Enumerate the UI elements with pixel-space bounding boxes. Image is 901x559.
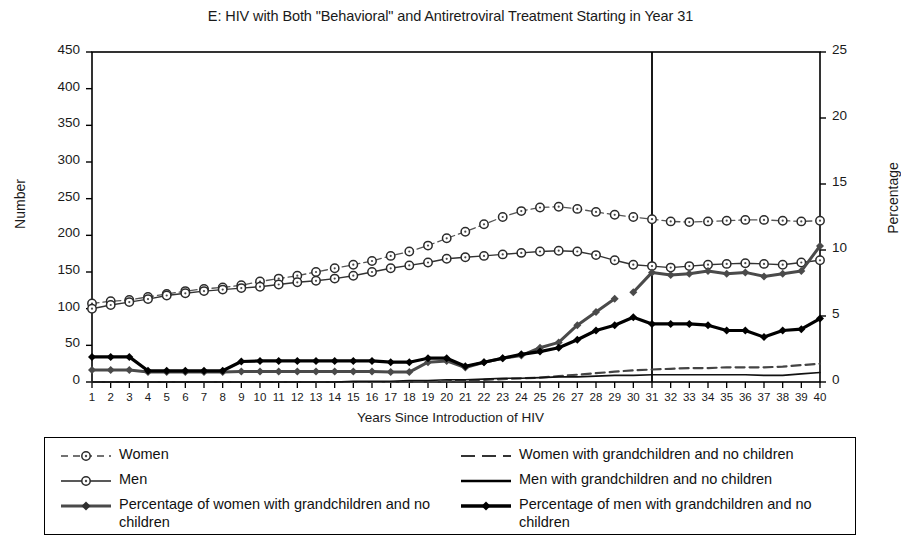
series-marker-dot-1 (184, 292, 186, 294)
y-axis-left-tick-label: 250 (14, 189, 80, 204)
y-axis-left-tick-label: 350 (14, 115, 80, 130)
series-marker-3 (331, 357, 339, 365)
series-marker-dot-0 (483, 223, 485, 225)
series-marker-dot-1 (408, 264, 410, 266)
series-marker-dot-0 (539, 206, 541, 208)
series-marker-3 (648, 320, 656, 328)
series-marker-dot-1 (595, 254, 597, 256)
series-marker-3 (779, 327, 787, 335)
series-line-2 (633, 246, 820, 292)
series-marker-dot-1 (670, 267, 672, 269)
legend-swatch (59, 446, 117, 466)
series-marker-dot-1 (166, 294, 168, 296)
series-marker-dot-1 (427, 261, 429, 263)
legend-item[interactable]: Women (59, 446, 459, 468)
series-marker-dot-0 (651, 218, 653, 220)
series-marker-dot-0 (334, 267, 336, 269)
series-marker-2 (667, 271, 675, 279)
series-marker-dot-1 (651, 265, 653, 267)
y-axis-right-tick-label: 15 (832, 174, 862, 189)
series-marker-dot-0 (315, 271, 317, 273)
series-marker-dot-0 (558, 206, 560, 208)
series-marker-dot-0 (819, 220, 821, 222)
legend-item[interactable]: Women with grandchildren and no children (459, 446, 854, 468)
series-marker-dot-0 (595, 211, 597, 213)
series-marker-3 (667, 320, 675, 328)
series-marker-dot-0 (744, 219, 746, 221)
series-marker-dot-1 (632, 264, 634, 266)
series-marker-dot-1 (502, 253, 504, 255)
legend-item[interactable]: Men with grandchildren and no children (459, 471, 854, 493)
legend-swatch (459, 496, 517, 516)
series-line-5 (92, 373, 820, 383)
series-marker-dot-1 (707, 264, 709, 266)
series-marker-dot-1 (203, 290, 205, 292)
series-marker-2 (107, 366, 115, 374)
x-axis-title: Years Since Introduction of HIV (0, 410, 901, 425)
y-axis-left-tick-label: 400 (14, 79, 80, 94)
legend-swatch (59, 496, 117, 516)
series-marker-dot-0 (408, 250, 410, 252)
series-marker-2 (760, 272, 768, 280)
series-marker-dot-1 (576, 250, 578, 252)
series-marker-2 (312, 367, 320, 375)
series-marker-dot-0 (726, 220, 728, 222)
series-marker-dot-0 (520, 210, 522, 212)
y-axis-right-tick-label: 0 (832, 372, 862, 387)
series-marker-3 (107, 353, 115, 361)
series-marker-dot-1 (558, 250, 560, 252)
y-axis-right-tick-label: 10 (832, 240, 862, 255)
legend-label: Women (117, 446, 169, 464)
series-marker-2 (368, 367, 376, 375)
series-marker-dot-1 (782, 264, 784, 266)
legend-item[interactable]: Percentage of men with grandchildren and… (459, 496, 854, 531)
legend-item[interactable]: Men (59, 471, 459, 493)
series-marker-dot-1 (614, 259, 616, 261)
series-marker-2 (256, 367, 264, 375)
series-marker-3 (275, 357, 283, 365)
series-marker-3 (723, 327, 731, 335)
legend-item[interactable]: Percentage of women with grandchildren a… (59, 496, 459, 531)
series-marker-2 (723, 270, 731, 278)
series-marker-dot-0 (707, 220, 709, 222)
series-marker-dot-1 (763, 263, 765, 265)
series-marker-dot-0 (688, 221, 690, 223)
legend-label: Men (117, 471, 147, 489)
series-marker-3 (405, 358, 413, 366)
series-marker-dot-0 (763, 219, 765, 221)
series-marker-dot-0 (632, 216, 634, 218)
series-marker-3 (480, 358, 488, 366)
series-marker-dot-0 (614, 214, 616, 216)
chart-title: E: HIV with Both "Behavioral" and Antire… (0, 8, 901, 24)
series-marker-dot-0 (352, 264, 354, 266)
legend-swatch (459, 446, 517, 466)
plot-frame (92, 52, 820, 382)
series-marker-3 (499, 354, 507, 362)
series-marker-2 (331, 367, 339, 375)
y-axis-left-tick-label: 150 (14, 262, 80, 277)
series-marker-dot-0 (446, 237, 448, 239)
legend-label: Percentage of men with grandchildren and… (517, 496, 854, 531)
series-marker-dot-1 (110, 304, 112, 306)
legend-swatch-dashed-plain (459, 446, 517, 466)
legend-swatch-dashed-open-circle (59, 446, 117, 466)
series-marker-dot-1 (91, 308, 93, 310)
legend-swatch-thick-gray-diamond (59, 496, 117, 516)
series-marker-3 (685, 320, 693, 328)
series-marker-dot-1 (128, 301, 130, 303)
legend-swatch-thick-black-diamond (459, 496, 517, 516)
series-marker-dot-1 (446, 258, 448, 260)
series-marker-dot-1 (334, 278, 336, 280)
y-axis-right-tick-label: 5 (832, 306, 862, 321)
series-marker-3 (368, 357, 376, 365)
series-marker-dot-1 (352, 275, 354, 277)
series-marker-2 (349, 367, 357, 375)
series-marker-dot-1 (222, 289, 224, 291)
series-marker-dot-0 (390, 255, 392, 257)
series-marker-dot-1 (315, 280, 317, 282)
series-marker-dot-0 (278, 278, 280, 280)
series-marker-dot-1 (240, 287, 242, 289)
series-marker-2 (125, 366, 133, 374)
series-marker-2 (237, 367, 245, 375)
legend-label: Percentage of women with grandchildren a… (117, 496, 459, 531)
